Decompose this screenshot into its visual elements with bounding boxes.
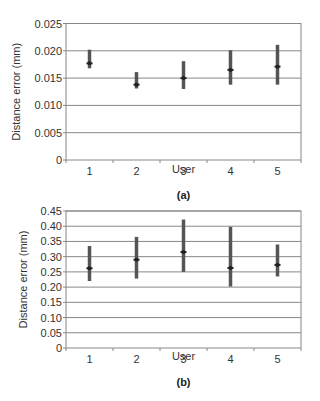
y-tick-label: 0.20 (41, 281, 62, 293)
x-tick-label: 4 (227, 165, 233, 177)
panel-label: (a) (177, 189, 191, 201)
mean-point (276, 263, 280, 267)
x-axis-label: User (172, 163, 196, 175)
y-axis-label: Distance error (mm) (10, 43, 22, 141)
y-tick-label: 0.35 (41, 235, 62, 247)
y-tick-label: 0.025 (34, 18, 62, 30)
y-tick-label: 0.005 (34, 127, 62, 139)
y-tick-label: 0.30 (41, 251, 62, 263)
x-tick-label: 5 (274, 353, 280, 365)
mean-point (88, 266, 92, 270)
panel-label: (b) (176, 376, 190, 388)
mean-point (229, 266, 233, 270)
y-tick-label: 0 (56, 342, 62, 354)
x-tick-label: 1 (86, 165, 92, 177)
y-tick-label: 0.45 (41, 205, 62, 217)
mean-point (182, 250, 186, 254)
y-tick-label: 0.15 (41, 296, 62, 308)
x-tick-label: 2 (133, 353, 139, 365)
x-tick-label: 2 (133, 165, 139, 177)
plot-frame (66, 24, 301, 161)
y-tick-label: 0.015 (34, 72, 62, 84)
x-tick-label: 4 (227, 353, 233, 365)
x-tick-label: 5 (274, 165, 280, 177)
y-tick-label: 0.25 (41, 266, 62, 278)
y-tick-label: 0.020 (34, 45, 62, 57)
mean-point (135, 258, 139, 262)
chart-figure: 00.0050.0100.0150.0200.02512345UserDista… (0, 0, 320, 401)
mean-point (229, 68, 233, 72)
y-axis-label: Distance error (mm) (17, 231, 29, 329)
y-tick-label: 0.10 (41, 312, 62, 324)
y-tick-label: 0.010 (34, 99, 62, 111)
mean-point (276, 65, 280, 69)
y-tick-label: 0.40 (41, 220, 62, 232)
mean-point (182, 76, 186, 80)
x-tick-label: 1 (86, 353, 92, 365)
x-axis-label: User (172, 350, 196, 362)
y-tick-label: 0 (56, 154, 62, 166)
mean-point (88, 61, 92, 65)
y-tick-label: 0.05 (41, 327, 62, 339)
mean-point (135, 83, 139, 87)
